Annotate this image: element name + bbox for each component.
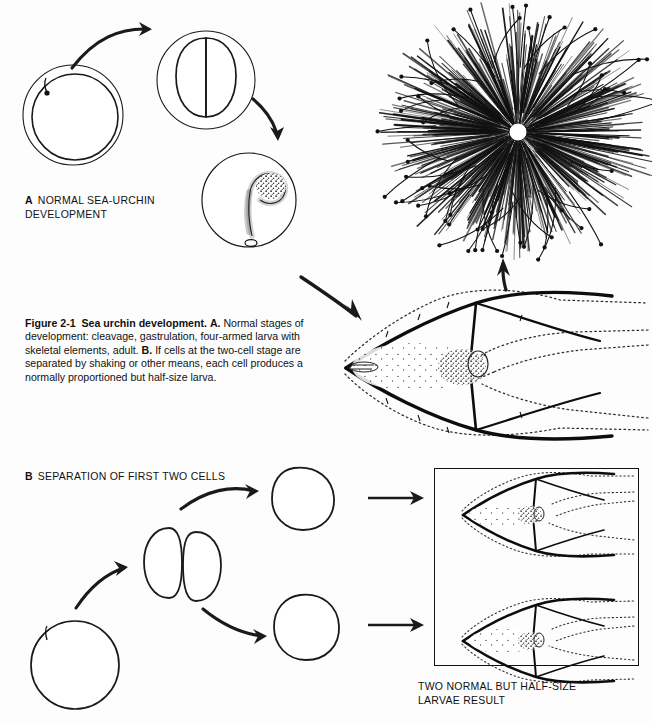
arrow-b-to-lower-blastomere [203,609,267,644]
arrow-gastrula-to-larva [301,277,362,321]
arrow-larva-to-adult [497,258,510,290]
larvae-result-box [434,468,639,666]
stage-pluteus-larva [345,290,648,439]
arrow-two-cell-to-gastrula [253,99,284,141]
stage-gastrula [202,153,296,247]
caption-key-b: B. [142,344,153,356]
figure-title: Sea urchin development. [82,317,207,329]
figure-sea-urchin-development: ANORMAL SEA-URCHIN DEVELOPMENT BSEPARATI… [0,0,652,723]
arrow-egg-to-two-cell [72,22,152,68]
stage-adult-sea-urchin [376,3,652,262]
caption-key-a: A. [210,317,221,329]
stage-b-two-cell [144,528,221,601]
figure-caption: Figure 2-1 Sea urchin development. A. No… [25,317,325,384]
stage-b-egg [31,621,119,709]
panel-b-key: B [25,470,33,482]
stage-b-blastomere-lower [274,595,339,660]
arrow-b-egg-to-two-cell [76,561,128,608]
panel-b-label-text: SEPARATION OF FIRST TWO CELLS [38,470,225,482]
arrow-b-to-lower-larva [368,618,424,632]
panel-a-label-text: NORMAL SEA-URCHIN DEVELOPMENT [25,194,155,220]
stage-two-cell [157,31,255,129]
panel-b-label: BSEPARATION OF FIRST TWO CELLS [25,470,225,484]
panel-a-label: ANORMAL SEA-URCHIN DEVELOPMENT [25,194,155,221]
stage-b-blastomere-upper [272,468,334,530]
larvae-result-label: TWO NORMAL BUT HALF-SIZE LARVAE RESULT [418,679,576,707]
panel-a-key: A [25,194,33,206]
arrow-b-to-upper-blastomere [181,484,259,509]
stage-fertilized-egg [23,65,123,165]
figure-number: Figure 2-1 [25,317,76,329]
arrow-b-to-upper-larva [368,491,424,505]
